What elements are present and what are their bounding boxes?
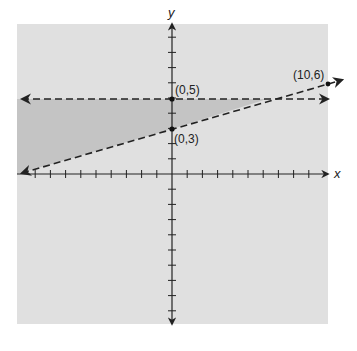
label-0-5: (0,5) [175,83,200,97]
inequality-graph: (0,5) (0,3) (10,6) x y [0,0,357,351]
label-0-3: (0,3) [174,132,199,146]
point-0-3 [169,126,174,131]
x-axis-label: x [333,166,341,181]
label-10-6: (10,6) [293,68,324,82]
point-10-6 [326,82,331,87]
y-axis-label: y [167,5,176,20]
point-0-5 [169,96,174,101]
